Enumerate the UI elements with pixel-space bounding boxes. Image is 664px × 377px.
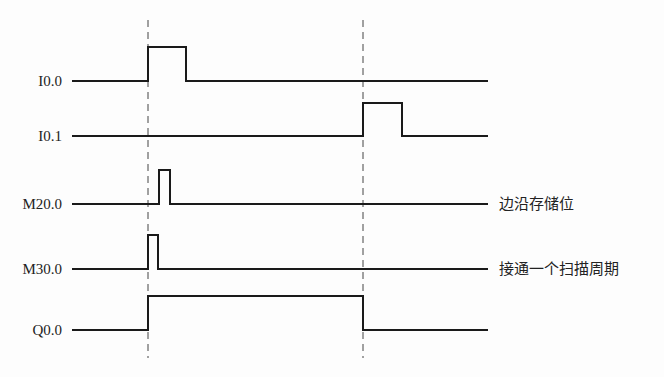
waveform-i0-0	[72, 47, 488, 81]
waveform-canvas	[0, 0, 664, 377]
waveform-m20-0	[72, 170, 488, 204]
waveform-m30-0	[72, 235, 488, 269]
signal-label-q0-0: Q0.0	[0, 322, 62, 338]
annotation-one-scan-cycle: 接通一个扫描周期	[499, 260, 619, 278]
signal-label-i0-0: I0.0	[0, 73, 62, 89]
timing-diagram: I0.0 I0.1 M20.0 M30.0 Q0.0 边沿存储位 接通一个扫描周…	[0, 0, 664, 377]
signal-label-m20-0: M20.0	[0, 196, 62, 212]
signal-label-m30-0: M30.0	[0, 261, 62, 277]
waveform-i0-1	[72, 103, 488, 136]
waveform-q0-0	[72, 296, 488, 330]
annotation-edge-memory-bit: 边沿存储位	[499, 195, 574, 213]
signal-label-i0-1: I0.1	[0, 128, 62, 144]
